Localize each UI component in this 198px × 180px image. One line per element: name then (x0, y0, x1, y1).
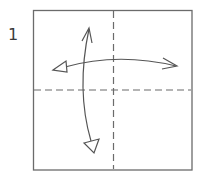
origami-diagram (0, 0, 198, 180)
